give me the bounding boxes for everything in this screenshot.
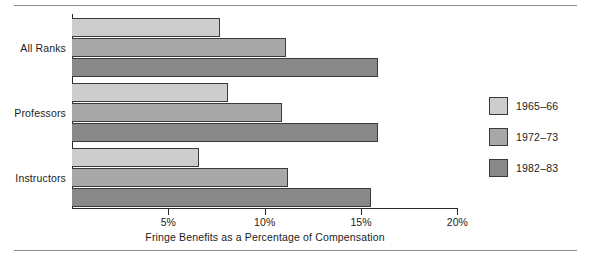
- category-label: All Ranks: [0, 42, 66, 54]
- legend-label: 1972–73: [516, 131, 558, 143]
- category-label: Professors: [0, 107, 66, 119]
- legend-item: 1982–83: [489, 158, 584, 177]
- x-axis-tick: [361, 209, 362, 215]
- x-axis-tick: [265, 209, 266, 215]
- bar: [72, 188, 371, 207]
- x-axis-tick-label: 10%: [254, 216, 275, 228]
- bar: [72, 18, 220, 37]
- x-axis-tick-label: 20%: [447, 216, 468, 228]
- legend-item: 1972–73: [489, 127, 584, 146]
- chart-legend: 1965–661972–731982–83: [489, 96, 584, 177]
- bar: [72, 148, 199, 167]
- bar: [72, 103, 282, 122]
- category-labels: All RanksProfessorsInstructors: [0, 0, 66, 256]
- legend-swatch-icon: [489, 128, 508, 146]
- top-divider-rule: [14, 5, 577, 6]
- x-axis-tick-label: 5%: [161, 216, 176, 228]
- legend-label: 1965–66: [516, 100, 558, 112]
- bar: [72, 168, 288, 187]
- chart-figure: 5%10%15%20% All RanksProfessorsInstructo…: [0, 0, 591, 256]
- legend-swatch-icon: [489, 97, 508, 115]
- bar: [72, 83, 228, 102]
- x-axis-tick: [457, 209, 458, 215]
- x-axis-tick-label: 15%: [350, 216, 371, 228]
- x-axis-tick: [168, 209, 169, 215]
- bar: [72, 38, 286, 57]
- bar: [72, 58, 378, 77]
- bottom-divider-rule: [14, 250, 577, 251]
- category-label: Instructors: [0, 172, 66, 184]
- legend-label: 1982–83: [516, 162, 558, 174]
- legend-item: 1965–66: [489, 96, 584, 115]
- x-axis-title: Fringe Benefits as a Percentage of Compe…: [72, 231, 458, 243]
- bar: [72, 123, 378, 142]
- legend-swatch-icon: [489, 159, 508, 177]
